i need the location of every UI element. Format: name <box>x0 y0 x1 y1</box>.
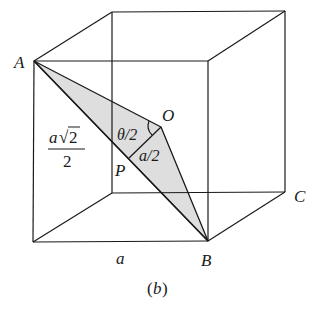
fraction-numerator-var: a <box>49 128 58 147</box>
cube-diagram: A O P C B θ/2 a/2 a a √ 2 2 ( b ) <box>0 0 324 312</box>
cube-front-face <box>33 61 208 242</box>
fraction-denominator: 2 <box>63 152 72 171</box>
label-half-edge: a/2 <box>139 147 159 164</box>
label-C: C <box>294 187 306 206</box>
label-edge-a: a <box>116 249 125 268</box>
face-diagonal-AB <box>34 61 208 241</box>
label-P: P <box>114 161 125 180</box>
caption-letter: b <box>153 279 162 298</box>
figure-caption: ( b ) <box>147 279 168 298</box>
caption-close-paren: ) <box>162 279 168 298</box>
label-B: B <box>201 251 212 270</box>
label-half-diagonal-fraction: a √ 2 2 <box>48 127 85 171</box>
fraction-root-sign: √ <box>59 128 69 147</box>
label-O: O <box>162 106 174 125</box>
fraction-numerator-radicand: 2 <box>69 128 78 147</box>
label-angle-theta-half: θ/2 <box>117 126 137 143</box>
label-A: A <box>13 53 25 72</box>
